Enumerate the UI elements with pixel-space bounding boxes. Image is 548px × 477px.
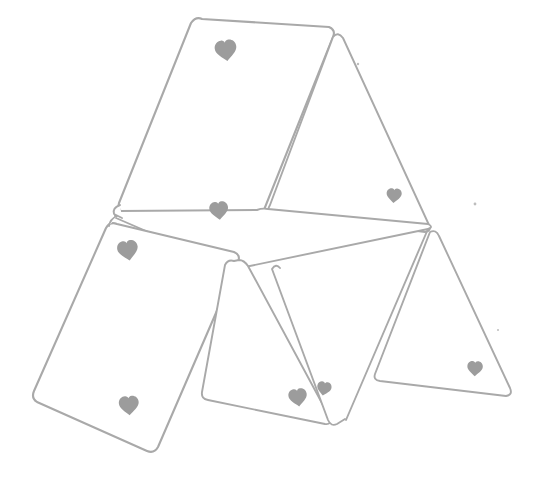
drawing-canvas: House of Cards Pencil line drawing of a … [0,0,548,477]
house-of-cards-illustration [0,0,548,477]
paper-speck [474,203,477,206]
paper-speck [497,329,499,331]
paper-speck [357,63,359,65]
